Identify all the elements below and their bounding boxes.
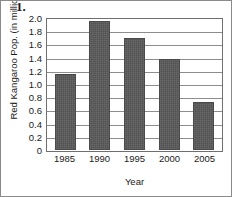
bar-slot <box>48 20 83 150</box>
bar-slot <box>152 20 187 150</box>
x-tick-label: 2005 <box>187 154 222 164</box>
y-tick-label: 0.2 <box>1 133 42 143</box>
bar-1995 <box>124 38 145 150</box>
bar-2000 <box>159 59 180 150</box>
bar-series <box>48 20 221 150</box>
y-tick-label: 0.8 <box>1 93 42 103</box>
x-axis-title: Year <box>47 176 222 187</box>
bar-1990 <box>89 21 110 150</box>
y-tick-label: 1.6 <box>1 41 42 51</box>
x-tick-label: 1990 <box>82 154 117 164</box>
x-axis-tick-labels: 19851990199520002005 <box>47 154 222 164</box>
x-tick-label: 1985 <box>47 154 82 164</box>
x-tick-label: 1995 <box>117 154 152 164</box>
bar-slot <box>186 20 221 150</box>
y-tick-label: 2.0 <box>1 14 42 24</box>
y-tick-label: 1.0 <box>1 80 42 90</box>
y-tick-label: 1.8 <box>1 27 42 37</box>
bar-1985 <box>55 74 76 150</box>
bar-slot <box>83 20 118 150</box>
plot-area <box>46 18 223 152</box>
y-tick-label: 1.4 <box>1 54 42 64</box>
y-tick-label: 1.2 <box>1 67 42 77</box>
y-axis-tick-labels: 2.01.81.61.41.21.00.80.60.40.20 <box>1 18 42 152</box>
x-tick-label: 2000 <box>152 154 187 164</box>
bar-chart-figure: 1. Red Kangaroo Pop. (in millions) 2.01.… <box>0 0 232 197</box>
y-tick-label: 0.6 <box>1 107 42 117</box>
bar-2005 <box>193 102 214 150</box>
bar-slot <box>117 20 152 150</box>
y-tick-label: 0.4 <box>1 120 42 130</box>
y-tick-label: 0 <box>1 146 42 156</box>
